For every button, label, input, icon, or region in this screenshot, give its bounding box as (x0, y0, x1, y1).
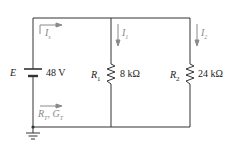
current-i2-label: I2 (201, 28, 207, 40)
current-is-label: Is (45, 28, 51, 40)
resistor-r1 (107, 64, 115, 84)
r2-value: 24 kΩ (198, 69, 223, 79)
source-value: 48 V (46, 68, 66, 78)
r1-label: R1 (91, 70, 101, 83)
r2-label: R2 (170, 70, 180, 83)
resistor-r2 (186, 64, 194, 84)
r1-value: 8 kΩ (120, 69, 140, 79)
equivalent-label: RT, GT (38, 109, 63, 121)
source-label: E (10, 68, 16, 78)
current-i1-label: I1 (122, 28, 128, 40)
